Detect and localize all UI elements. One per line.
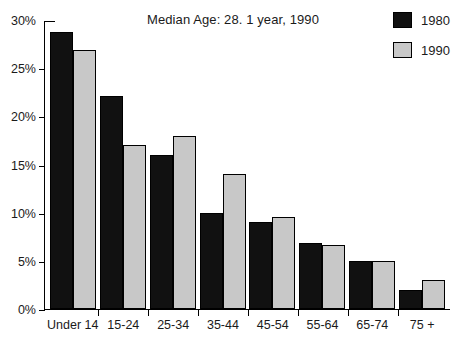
x-axis-tick: [298, 309, 299, 316]
bar-1990-2[interactable]: [173, 136, 196, 309]
bar-group: [98, 21, 148, 309]
y-axis-tick-label: 15%: [11, 159, 36, 173]
x-axis-label-4: 45-54: [248, 318, 298, 332]
x-axis-tick: [348, 309, 349, 316]
bar-1980-5[interactable]: [299, 243, 322, 309]
y-axis-tick-label: 0%: [18, 303, 36, 317]
x-axis-category-labels: Under 1415-2425-3435-4445-5455-6465-7475…: [44, 318, 450, 332]
bar-1980-3[interactable]: [200, 213, 223, 309]
bar-1980-7[interactable]: [399, 290, 422, 309]
x-axis-tick: [398, 309, 399, 316]
y-axis-tick-label: 30%: [11, 14, 36, 28]
y-axis-tick-label: 5%: [18, 255, 36, 269]
bar-1990-5[interactable]: [322, 245, 345, 309]
x-axis-label-5: 55-64: [298, 318, 348, 332]
x-axis-tick: [98, 309, 99, 316]
x-axis-tick: [148, 309, 149, 316]
bar-group: [248, 21, 298, 309]
x-axis-label-1: 15-24: [98, 318, 148, 332]
x-axis-tick: [198, 309, 199, 316]
bar-1990-7[interactable]: [422, 280, 445, 309]
bar-1990-4[interactable]: [272, 217, 295, 309]
bar-1980-6[interactable]: [349, 261, 372, 309]
bar-1990-0[interactable]: [73, 50, 96, 309]
bar-chart: Median Age: 28. 1 year, 1990 1980 1990 0…: [0, 0, 458, 347]
bar-series-container: [45, 21, 450, 309]
bar-group: [297, 21, 347, 309]
bar-1980-1[interactable]: [100, 96, 123, 309]
x-axis-label-0: Under 14: [47, 318, 98, 332]
x-axis-label-3: 35-44: [198, 318, 248, 332]
x-axis-label-2: 25-34: [148, 318, 198, 332]
bar-1990-1[interactable]: [123, 145, 146, 309]
x-axis-tick: [248, 309, 249, 316]
y-axis-tick-label: 10%: [11, 207, 36, 221]
bar-group: [347, 21, 397, 309]
x-axis-ticks: [45, 309, 450, 316]
bar-group: [48, 21, 98, 309]
bar-1980-2[interactable]: [150, 155, 173, 309]
x-axis-label-6: 65-74: [347, 318, 397, 332]
bar-group: [397, 21, 447, 309]
plot-area: 0%5%10%15%20%25%30%: [44, 21, 450, 310]
y-axis-tick-label: 20%: [11, 110, 36, 124]
bar-group: [148, 21, 198, 309]
bar-group: [198, 21, 248, 309]
bar-1990-3[interactable]: [223, 174, 246, 309]
bar-1980-4[interactable]: [249, 222, 272, 309]
x-axis-label-7: 75 +: [397, 318, 447, 332]
bar-1980-0[interactable]: [50, 32, 73, 309]
bar-1990-6[interactable]: [372, 261, 395, 309]
y-axis-tick-label: 25%: [11, 62, 36, 76]
